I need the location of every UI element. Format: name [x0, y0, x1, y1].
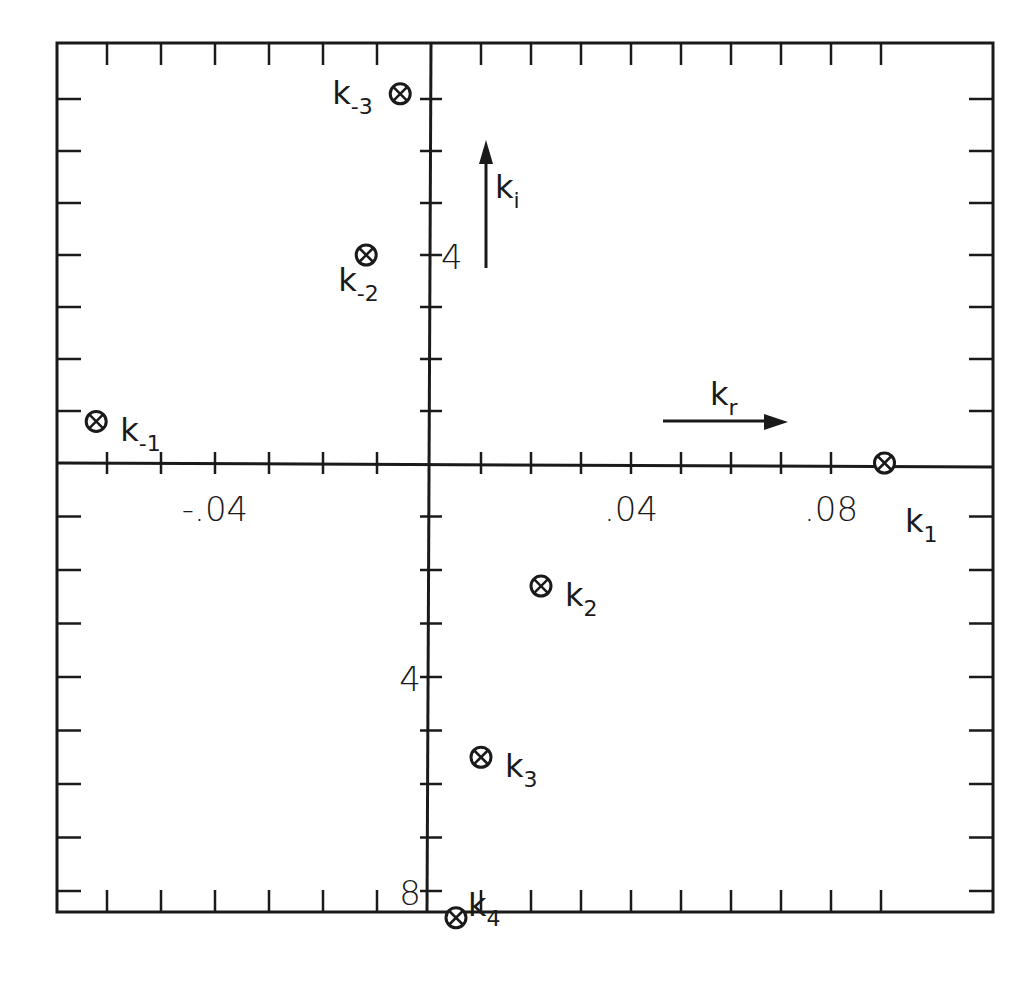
svg-text:kr: kr — [710, 375, 739, 420]
point-label: k3 — [505, 747, 538, 792]
point-k-2: k-2 — [338, 245, 378, 306]
y-tick-label: 8 — [399, 873, 421, 913]
svg-text:ki: ki — [495, 168, 520, 213]
point-k3: k3 — [471, 747, 538, 792]
x-tick-label: .08 — [804, 489, 858, 529]
point-k1 — [875, 453, 895, 473]
point-label: k-3 — [332, 74, 372, 119]
root-locus-chart: -.04.04.08448k1 kikr k-3k-2k-1k2k3k4 — [0, 0, 1032, 995]
k1-label: k1 — [905, 502, 938, 547]
point-k-3: k-3 — [332, 74, 410, 119]
y-tick-label: 4 — [399, 659, 421, 699]
y-tick-label: 4 — [441, 237, 463, 277]
point-k4: k4 — [446, 886, 501, 931]
k-r-arrow: kr — [663, 375, 788, 430]
x-tick-label: -.04 — [182, 489, 248, 529]
k-i-arrow: ki — [479, 140, 520, 268]
tick-labels: -.04.04.08448k1 — [182, 237, 938, 913]
x-tick-label: .04 — [604, 489, 658, 529]
point-label: k4 — [468, 886, 501, 931]
point-label: k-1 — [120, 411, 160, 456]
axis-direction-arrows: kikr — [479, 140, 788, 430]
x-axis — [57, 463, 993, 467]
point-label: k-2 — [338, 261, 378, 306]
y-axis — [427, 43, 431, 912]
point-k-1: k-1 — [86, 411, 160, 456]
point-label: k2 — [565, 576, 598, 621]
point-k2: k2 — [531, 576, 598, 621]
